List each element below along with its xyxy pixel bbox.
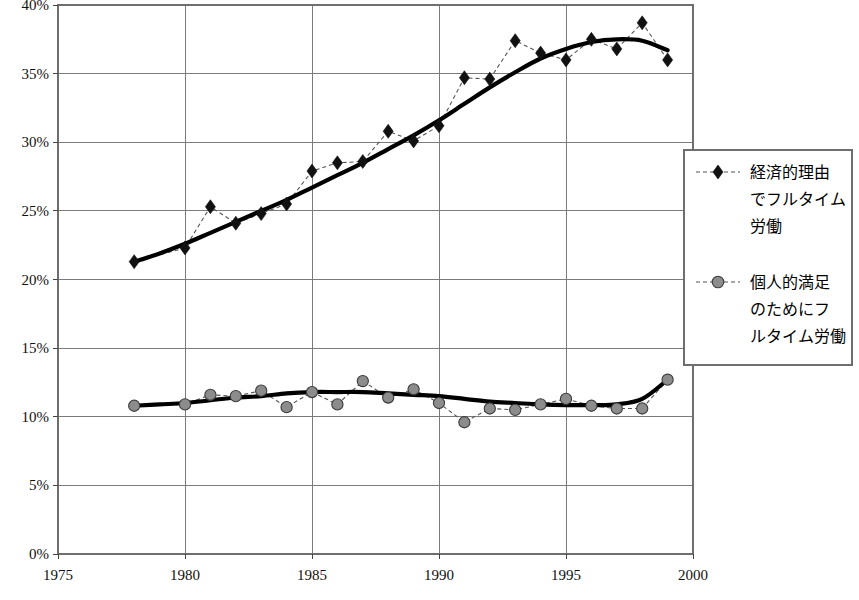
data-point-marker <box>459 71 469 85</box>
data-point-marker <box>179 399 190 410</box>
data-point-marker <box>510 34 520 48</box>
legend-label: 経済的理由 <box>750 163 830 182</box>
x-tick-label: 1975 <box>43 567 73 583</box>
x-axis-tick-labels: 197519801985199019952000 <box>43 567 708 583</box>
gridlines-horizontal <box>58 5 693 554</box>
data-point-marker <box>129 400 140 411</box>
chart-container: 0%5%10%15%20%25%30%35%40% 19751980198519… <box>0 0 859 600</box>
data-point-marker <box>281 402 292 413</box>
data-point-marker <box>611 403 622 414</box>
legend-marker-circle-icon <box>712 276 724 288</box>
legend: 経済的理由でフルタイム労働個人的満足のためにフルタイム労働 <box>684 150 852 365</box>
series-personal-satisfaction <box>129 374 674 428</box>
y-tick-label: 30% <box>22 134 50 150</box>
y-axis-ticks <box>53 5 58 554</box>
y-axis-tick-labels: 0%5%10%15%20%25%30%35%40% <box>22 0 50 562</box>
data-point-marker <box>484 403 495 414</box>
x-tick-label: 2000 <box>678 567 708 583</box>
x-tick-label: 1985 <box>297 567 327 583</box>
legend-label: のためにフ <box>750 300 830 319</box>
data-point-marker <box>510 404 521 415</box>
y-tick-label: 40% <box>22 0 50 13</box>
y-tick-label: 35% <box>22 66 50 82</box>
data-point-marker <box>663 53 673 67</box>
line-chart: 0%5%10%15%20%25%30%35%40% 19751980198519… <box>0 0 859 600</box>
y-tick-label: 0% <box>29 546 49 562</box>
y-tick-label: 20% <box>22 272 50 288</box>
data-point-marker <box>357 375 368 386</box>
legend-label: でフルタイム <box>750 190 846 209</box>
x-axis-ticks <box>58 554 693 559</box>
data-point-marker <box>129 255 139 269</box>
data-point-marker <box>408 384 419 395</box>
data-point-marker <box>612 42 622 56</box>
x-tick-label: 1995 <box>551 567 581 583</box>
data-point-marker <box>662 374 673 385</box>
data-point-marker <box>561 53 571 67</box>
data-point-marker <box>256 385 267 396</box>
data-point-marker <box>433 397 444 408</box>
data-point-marker <box>383 392 394 403</box>
data-point-marker <box>332 156 342 170</box>
data-point-marker <box>586 400 597 411</box>
data-point-marker <box>306 386 317 397</box>
y-tick-label: 10% <box>22 409 50 425</box>
legend-label: 労働 <box>750 217 782 236</box>
y-tick-label: 15% <box>22 340 50 356</box>
data-point-marker <box>332 399 343 410</box>
data-point-marker <box>205 389 216 400</box>
data-point-marker <box>383 124 393 138</box>
trend-line <box>134 39 667 262</box>
y-tick-label: 25% <box>22 203 50 219</box>
data-point-marker <box>459 417 470 428</box>
legend-label: ルタイム労働 <box>750 327 846 346</box>
data-point-marker <box>307 164 317 178</box>
data-point-marker <box>637 403 648 414</box>
x-tick-label: 1980 <box>170 567 200 583</box>
y-tick-label: 5% <box>29 477 49 493</box>
data-point-marker <box>560 393 571 404</box>
x-tick-label: 1990 <box>424 567 454 583</box>
data-point-marker <box>535 399 546 410</box>
legend-label: 個人的満足 <box>750 273 830 292</box>
data-point-marker <box>230 391 241 402</box>
